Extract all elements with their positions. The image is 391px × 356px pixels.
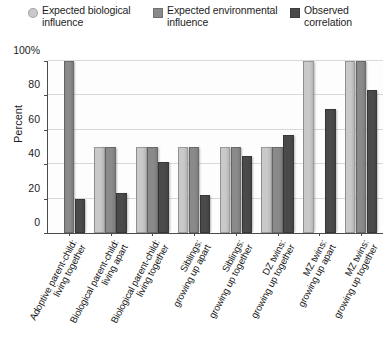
bar <box>356 61 367 233</box>
bar <box>200 195 211 233</box>
bar <box>242 156 253 233</box>
bar <box>367 90 378 233</box>
bar-group <box>299 61 341 233</box>
bar <box>189 147 200 233</box>
legend-label-biological: Expected biological influence <box>42 5 131 28</box>
x-axis-labels: Adoptive parent-child: living togetherBi… <box>0 236 391 356</box>
bar <box>94 147 105 233</box>
x-axis-tick-mark <box>236 233 237 236</box>
legend-label-observed: Observed correlation <box>304 5 352 28</box>
x-axis-tick-mark <box>319 233 320 236</box>
bar <box>283 135 294 233</box>
bar-group <box>257 61 299 233</box>
bar-chart: Expected biological influence Expected e… <box>0 0 391 356</box>
bar <box>136 147 147 233</box>
legend-swatch-icon-environmental <box>153 8 163 18</box>
bar-group <box>90 61 132 233</box>
y-axis-tick-label: 100% <box>0 44 40 56</box>
x-axis-tick-mark <box>361 233 362 236</box>
legend-item-biological: Expected biological influence <box>28 5 146 28</box>
x-axis-tick-mark <box>194 233 195 236</box>
legend-label-environmental: Expected environmental influence <box>167 5 277 28</box>
bars-layer <box>48 61 382 233</box>
bar <box>345 61 356 233</box>
bar-group <box>340 61 382 233</box>
x-axis-tick-mark <box>69 233 70 236</box>
bar <box>261 147 272 233</box>
bar <box>303 61 314 233</box>
bar <box>178 147 189 233</box>
y-axis-title: Percent <box>12 84 24 164</box>
bar <box>75 199 86 233</box>
x-axis-tick-mark <box>111 233 112 236</box>
bar-group <box>215 61 257 233</box>
x-axis-tick-mark <box>278 233 279 236</box>
legend-swatch-icon-biological <box>28 8 38 18</box>
legend-item-environmental: Expected environmental influence <box>153 5 281 28</box>
bar <box>272 147 283 233</box>
legend-item-observed: Observed correlation <box>290 5 385 28</box>
chart-legend: Expected biological influence Expected e… <box>0 0 391 42</box>
bar <box>325 109 336 233</box>
bar <box>64 61 75 233</box>
x-axis-tick-mark <box>152 233 153 236</box>
bar <box>220 147 231 233</box>
y-axis-tick-label: 0 <box>0 216 40 228</box>
bar <box>158 162 169 233</box>
bar <box>116 193 127 233</box>
bar-group <box>48 61 90 233</box>
bar-group <box>173 61 215 233</box>
bar-group <box>132 61 174 233</box>
y-axis-tick-label: 20 <box>0 182 40 194</box>
bar <box>231 147 242 233</box>
bar <box>147 147 158 233</box>
bar <box>105 147 116 233</box>
legend-swatch-icon-observed <box>290 8 300 18</box>
